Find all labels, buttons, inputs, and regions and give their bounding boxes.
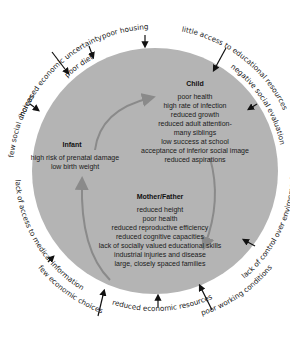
infant-title: Infant: [62, 141, 82, 148]
parent-item: lack of socially valued educational skil…: [99, 242, 222, 250]
factor-label: poor housing: [100, 22, 148, 41]
svg-text:poor housing: poor housing: [100, 22, 148, 41]
child-item: acceptance of inferior social image: [141, 147, 249, 155]
parent-item: poor health: [142, 215, 177, 223]
parent-item: reduced height: [137, 206, 183, 214]
child-item: reduced growth: [171, 111, 219, 119]
parent-title: Mother/Father: [137, 193, 184, 200]
child-item: poor health: [177, 93, 212, 101]
infant-item: low birth weight: [51, 163, 99, 171]
parent-item: reduced reproductive efficiency: [112, 224, 209, 232]
child-item: reduced adult attention-: [158, 120, 232, 127]
parent-item: industrial injuries and disease: [114, 251, 206, 259]
child-item: low success at school: [161, 138, 229, 145]
child-item: reduced aspirations: [164, 156, 226, 164]
factor-label: reduced economic resources: [111, 292, 214, 313]
child-item: high rate of infection: [163, 102, 226, 110]
parent-item: reduced cognitive capacities: [116, 233, 204, 241]
infant-item: high risk of prenatal damage: [31, 154, 119, 162]
child-item: many siblings: [174, 129, 217, 137]
svg-text:reduced economic resources: reduced economic resources: [111, 292, 214, 313]
parent-item: large, closely spaced families: [114, 260, 206, 268]
child-title: Child: [186, 80, 204, 87]
poverty-cycle-diagram: Child poor health high rate of infection…: [0, 0, 290, 342]
